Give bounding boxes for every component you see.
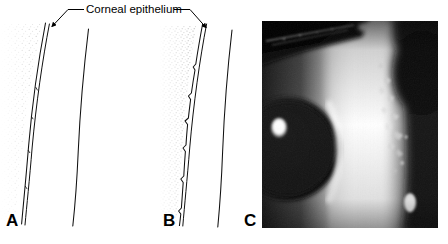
callout-label-corneal-epithelium: Corneal epithelium	[86, 3, 182, 16]
figure-container: Corneal epithelium	[0, 0, 448, 244]
panel-c-photograph	[262, 21, 438, 228]
panel-label-a: A	[6, 212, 18, 229]
panel-label-b: B	[163, 212, 175, 229]
callout-leader-left	[52, 10, 84, 27]
panel-b-diagram	[150, 24, 232, 228]
panel-a-stipple-layer	[0, 24, 42, 228]
photo-grain	[262, 21, 438, 228]
panel-c-photo-content	[262, 21, 438, 228]
panel-a-posterior-cornea-line	[73, 29, 89, 226]
panel-a-diagram	[0, 23, 89, 228]
panel-b-posterior-cornea-line	[218, 30, 232, 227]
panel-label-c: C	[244, 212, 256, 229]
panel-b-stipple-layer	[150, 26, 196, 228]
